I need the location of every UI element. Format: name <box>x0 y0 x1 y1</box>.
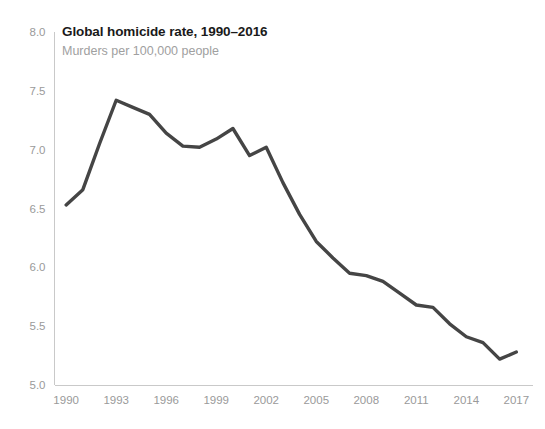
x-tick-2011: 2011 <box>404 394 429 406</box>
x-tick-1996: 1996 <box>153 394 179 406</box>
y-axis-tick-labels: 5.05.56.06.57.07.58.0 <box>30 26 46 391</box>
homicide-rate-chart: Global homicide rate, 1990–2016 Murders … <box>0 0 545 429</box>
x-tick-2017: 2017 <box>504 394 530 406</box>
y-tick-7.5: 7.5 <box>30 85 46 97</box>
y-tick-5.0: 5.0 <box>30 379 46 391</box>
y-tick-6.5: 6.5 <box>30 203 46 215</box>
y-tick-7.0: 7.0 <box>30 144 46 156</box>
x-tick-1990: 1990 <box>53 394 79 406</box>
x-tick-2014: 2014 <box>454 394 480 406</box>
x-tick-2008: 2008 <box>353 394 379 406</box>
x-tick-1993: 1993 <box>103 394 129 406</box>
x-tick-1999: 1999 <box>203 394 229 406</box>
y-tick-8.0: 8.0 <box>30 26 46 38</box>
y-tick-5.5: 5.5 <box>30 320 46 332</box>
y-tick-6.0: 6.0 <box>30 261 46 273</box>
x-tick-2002: 2002 <box>253 394 279 406</box>
x-axis-tick-labels: 1990199319961999200220052008201120142017 <box>53 394 529 406</box>
x-tick-2005: 2005 <box>303 394 329 406</box>
homicide-rate-line <box>66 100 516 359</box>
chart-plot-area: 5.05.56.06.57.07.58.0 199019931996199920… <box>0 0 545 429</box>
